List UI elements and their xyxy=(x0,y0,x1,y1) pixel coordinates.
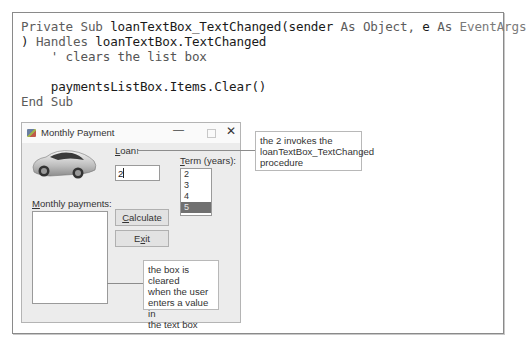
callout-box-cleared: the box is cleared when the user enters … xyxy=(143,260,219,310)
connector-line-top-horizontal xyxy=(137,150,255,151)
code-token: ' clears the list box xyxy=(21,49,207,64)
exit-button[interactable]: Exit xyxy=(115,230,169,247)
connector-line-bottom xyxy=(107,283,143,284)
car-image xyxy=(30,145,98,181)
callout-line: procedure xyxy=(260,157,357,168)
code-token: Handles xyxy=(36,34,95,49)
code-token: Private Sub xyxy=(21,19,110,34)
code-listing: Private Sub loanTextBox_TextChanged(send… xyxy=(21,19,526,109)
code-token: ) xyxy=(21,34,36,49)
payments-listbox[interactable] xyxy=(32,211,108,304)
term-item[interactable]: 3 xyxy=(181,180,211,191)
callout-line: the box is cleared xyxy=(148,264,214,286)
close-button[interactable]: ✕ xyxy=(226,124,236,138)
term-item[interactable]: 2 xyxy=(181,169,211,180)
callout-line: the text box xyxy=(148,319,214,330)
code-token: End Sub xyxy=(21,94,73,109)
monthly-payments-label: Monthly payments: xyxy=(32,198,112,209)
callout-line: loanTextBox_TextChanged xyxy=(260,146,357,157)
title-bar: Monthly Payment — ✕ xyxy=(22,123,240,143)
code-token: As xyxy=(437,19,459,34)
callout-line: the 2 invokes the xyxy=(260,135,357,146)
calculate-button[interactable]: Calculate xyxy=(115,209,169,226)
code-line xyxy=(21,64,526,79)
code-token: EventArgs xyxy=(460,19,526,34)
code-token: As Object, xyxy=(341,19,423,34)
window-title: Monthly Payment xyxy=(41,127,114,138)
term-label: Term (years): xyxy=(180,155,236,166)
code-token: loanTextBox.TextChanged xyxy=(95,34,266,49)
code-token: e xyxy=(422,19,437,34)
maximize-button[interactable] xyxy=(207,129,216,138)
callout-line: when the user xyxy=(148,286,214,297)
term-listbox[interactable]: 2 3 4 5 xyxy=(180,168,212,216)
callout-line: enters a value in xyxy=(148,297,214,319)
term-item[interactable]: 4 xyxy=(181,191,211,202)
loan-textbox[interactable]: 2 xyxy=(115,165,160,181)
app-icon xyxy=(27,129,36,137)
term-item-selected[interactable]: 5 xyxy=(181,202,211,213)
code-line: ' clears the list box xyxy=(21,49,526,64)
minimize-button[interactable]: — xyxy=(173,123,184,135)
code-line: paymentsListBox.Items.Clear() xyxy=(21,79,526,94)
code-line: End Sub xyxy=(21,94,526,109)
code-token: paymentsListBox.Items.Clear() xyxy=(21,79,266,94)
callout-textchanged: the 2 invokes the loanTextBox_TextChange… xyxy=(255,131,362,171)
code-token: loanTextBox_TextChanged(sender xyxy=(110,19,340,34)
code-line: Private Sub loanTextBox_TextChanged(send… xyxy=(21,19,526,34)
loan-label: Loan: xyxy=(115,145,139,156)
code-line: ) Handles loanTextBox.TextChanged xyxy=(21,34,526,49)
